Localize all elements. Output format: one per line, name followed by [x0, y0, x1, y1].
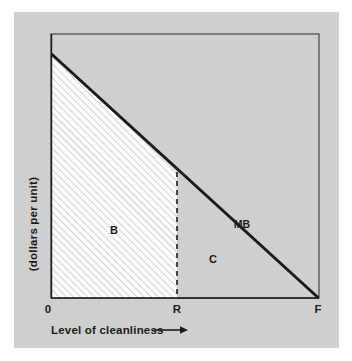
- x-tick-label-origin: 0: [45, 303, 51, 315]
- curve-label-mb: MB: [234, 218, 251, 230]
- x-axis-title: Level of cleanliness: [51, 324, 164, 336]
- x-tick-label-f: F: [314, 303, 321, 315]
- diagram-canvas: 0 R F B C MB (dollars per unit) Level of…: [14, 12, 339, 348]
- x-tick-label-r: R: [173, 303, 182, 315]
- y-axis-title: (dollars per unit): [27, 177, 39, 271]
- region-label-b: B: [110, 224, 118, 236]
- figure-root: 0 R F B C MB (dollars per unit) Level of…: [0, 0, 352, 361]
- region-label-c: C: [209, 253, 217, 265]
- figure-card: 0 R F B C MB (dollars per unit) Level of…: [14, 12, 339, 348]
